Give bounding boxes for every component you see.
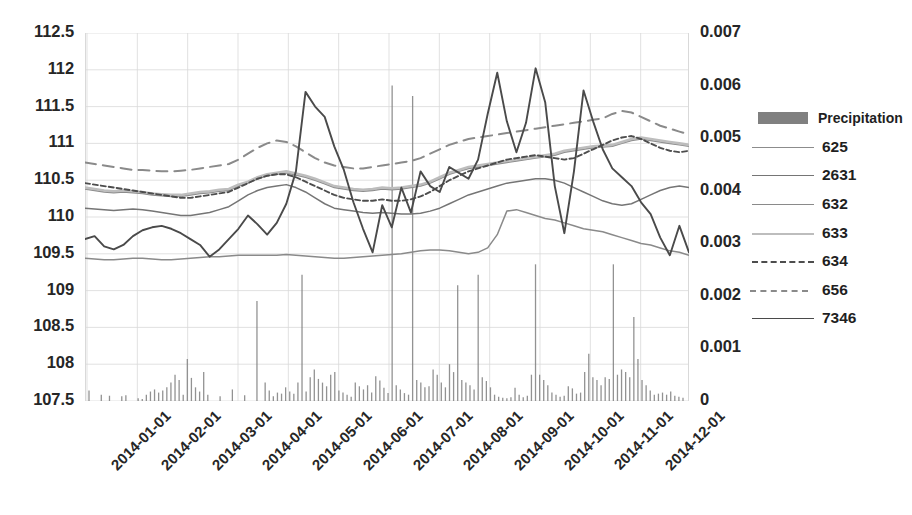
- legend-label: 656: [816, 281, 848, 299]
- legend-line-625: [748, 138, 816, 156]
- legend-item-precipitation[interactable]: Precipitation: [748, 104, 912, 133]
- legend-item-632[interactable]: 632: [748, 190, 912, 219]
- precipitation-water-level-chart: 112.5112111.5111110.5110109.5109108.5108…: [0, 0, 912, 515]
- legend-item-2631[interactable]: 2631: [748, 161, 912, 190]
- y-axis-left-tick: 110: [0, 206, 74, 225]
- series-line-7346: [85, 68, 689, 256]
- y-axis-right-tick: 0.001: [700, 337, 741, 356]
- y-axis-right-tick: 0.007: [700, 22, 741, 41]
- legend-label: 634: [816, 252, 848, 270]
- legend-line-mark: [752, 233, 814, 235]
- legend-line-mark: [752, 261, 814, 263]
- legend-swatch-precipitation: [748, 109, 816, 127]
- legend-line-2631: [748, 166, 816, 184]
- y-axis-right-tick: 0.005: [700, 127, 741, 146]
- legend-label: 625: [816, 138, 848, 156]
- plot-area: [85, 33, 689, 401]
- y-axis-left-tick: 108: [0, 353, 74, 372]
- legend-line-656: [748, 281, 816, 299]
- legend-item-7346[interactable]: 7346: [748, 304, 912, 333]
- legend-label: 632: [816, 195, 848, 213]
- legend-line-mark: [752, 147, 814, 148]
- y-axis-left-tick: 112.5: [0, 22, 74, 41]
- y-axis-right-tick: 0: [700, 390, 709, 409]
- legend-label: 2631: [816, 166, 856, 184]
- legend-line-mark: [750, 290, 808, 292]
- y-axis-left-tick: 111: [0, 132, 74, 151]
- legend-line-mark: [752, 204, 814, 205]
- legend-label: Precipitation: [816, 110, 903, 126]
- y-axis-left-tick: 111.5: [0, 96, 74, 115]
- legend-label: 633: [816, 224, 848, 242]
- legend-item-634[interactable]: 634: [748, 247, 912, 276]
- legend-item-625[interactable]: 625: [748, 133, 912, 162]
- legend-line-634: [748, 252, 816, 270]
- y-axis-left-tick: 109: [0, 280, 74, 299]
- y-axis-right-tick: 0.003: [700, 232, 741, 251]
- y-axis-left-tick: 108.5: [0, 316, 74, 335]
- precipitation-color-swatch: [758, 112, 808, 124]
- series-line-656: [85, 111, 689, 171]
- y-axis-left-tick: 107.5: [0, 390, 74, 409]
- legend-item-656[interactable]: 656: [748, 276, 912, 305]
- y-axis-right-tick: 0.002: [700, 285, 741, 304]
- legend-line-632: [748, 195, 816, 213]
- legend-line-mark: [752, 175, 814, 176]
- legend-line-mark: [752, 318, 814, 319]
- legend-label: 7346: [816, 309, 856, 327]
- legend-line-633: [748, 224, 816, 242]
- legend-line-7346: [748, 309, 816, 327]
- chart-legend: Precipitation62526316326336346567346: [748, 104, 912, 333]
- y-axis-right-tick: 0.006: [700, 75, 741, 94]
- y-axis-left-tick: 109.5: [0, 243, 74, 262]
- y-axis-left-tick: 112: [0, 59, 74, 78]
- y-axis-left-tick: 110.5: [0, 169, 74, 188]
- y-axis-right-tick: 0.004: [700, 180, 741, 199]
- legend-item-633[interactable]: 633: [748, 218, 912, 247]
- precipitation-bars: [89, 86, 683, 401]
